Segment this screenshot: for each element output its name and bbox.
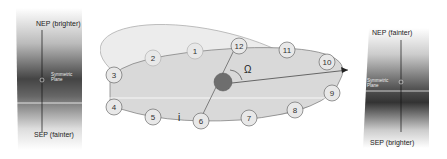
position-4: 4 (106, 99, 122, 115)
svg-text:9: 9 (330, 89, 335, 98)
svg-text:4: 4 (112, 103, 117, 112)
svg-text:10: 10 (323, 58, 332, 67)
position-5: 5 (145, 109, 161, 125)
left-plane-label: SymmetricPlane (51, 72, 72, 82)
right-polar-panel: NEP (fainter) SEP (brighter) SymmetricPl… (347, 0, 447, 159)
svg-text:6: 6 (199, 117, 204, 126)
svg-text:3: 3 (112, 71, 117, 80)
left-nep-label: NEP (brighter) (36, 20, 81, 27)
right-nep-label: NEP (fainter) (372, 29, 412, 36)
position-12: 12 (231, 38, 247, 54)
svg-text:8: 8 (293, 106, 298, 115)
position-3: 3 (106, 67, 122, 83)
left-polar-panel: NEP (brighter) SEP (fainter) SymmetricPl… (0, 0, 100, 159)
position-10: 10 (319, 54, 335, 70)
inclination-label: i (178, 112, 180, 123)
orbit-diagram: Ω i 1 2 3 4 5 6 7 8 9 10 11 12 (100, 0, 350, 159)
svg-text:5: 5 (151, 113, 156, 122)
svg-text:7: 7 (247, 114, 252, 123)
right-sep-label: SEP (brighter) (370, 139, 414, 146)
right-gradient-strip (347, 0, 447, 159)
node-angle-label: Ω (244, 64, 252, 75)
right-plane-label: SymmetricPlane (367, 78, 388, 88)
position-2: 2 (145, 50, 161, 66)
left-sep-label: SEP (fainter) (34, 131, 74, 138)
svg-text:11: 11 (283, 46, 292, 55)
position-9: 9 (324, 85, 340, 101)
position-6: 6 (193, 113, 209, 129)
position-1: 1 (187, 43, 203, 59)
svg-text:12: 12 (235, 42, 244, 51)
svg-text:1: 1 (193, 47, 198, 56)
position-7: 7 (241, 110, 257, 126)
sun-icon (214, 73, 232, 91)
position-11: 11 (279, 42, 295, 58)
position-8: 8 (287, 102, 303, 118)
svg-text:2: 2 (151, 54, 156, 63)
